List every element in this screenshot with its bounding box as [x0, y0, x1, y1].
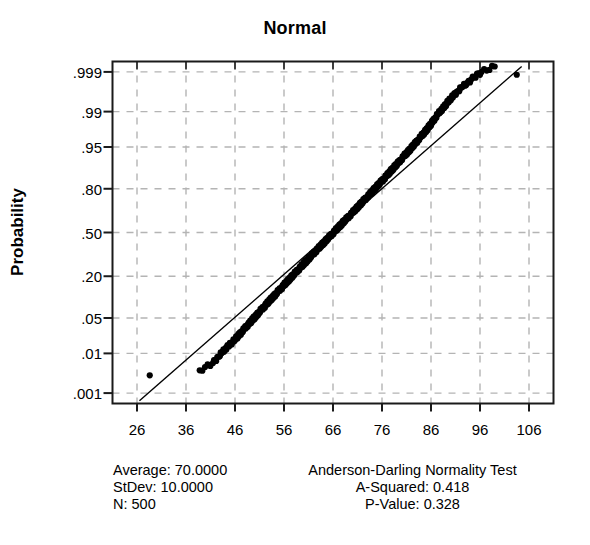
x-axis-tick-label: 26	[129, 421, 146, 438]
x-axis-tick-label: 36	[178, 421, 195, 438]
y-axis-tick-label: .99	[40, 103, 102, 120]
y-axis-tick-label: .95	[40, 139, 102, 156]
data-point	[147, 372, 153, 378]
y-axis-tick-label: .05	[40, 309, 102, 326]
plot-footer: Average: 70.0000 StDev: 10.0000 N: 500 A…	[0, 462, 590, 532]
y-axis-tick-label: .20	[40, 268, 102, 285]
x-axis-tick-label: 86	[423, 421, 440, 438]
x-axis-tick-label: 96	[472, 421, 489, 438]
p-value-stat: P-Value: 0.328	[290, 496, 535, 513]
x-axis-tick-label: 66	[325, 421, 342, 438]
average-stat: Average: 70.0000	[113, 462, 227, 479]
y-axis-tick-label: .80	[40, 180, 102, 197]
axis-ticks	[104, 62, 530, 412]
y-axis-tick-label: .50	[40, 224, 102, 241]
summary-statistics: Average: 70.0000 StDev: 10.0000 N: 500	[113, 462, 227, 513]
x-axis-tick-label: 56	[276, 421, 293, 438]
x-axis-tick-label: 76	[374, 421, 391, 438]
y-axis-tick-label: .999	[40, 63, 102, 80]
anderson-darling-test: Anderson-Darling Normality Test A-Square…	[290, 462, 535, 513]
y-axis-tick-label: .001	[40, 385, 102, 402]
data-point	[514, 72, 520, 78]
test-name: Anderson-Darling Normality Test	[290, 462, 535, 479]
stdev-stat: StDev: 10.0000	[113, 479, 227, 496]
y-axis-tick-label: .01	[40, 345, 102, 362]
a-squared-stat: A-Squared: 0.418	[290, 479, 535, 496]
x-axis-tick-label: 106	[516, 421, 541, 438]
n-stat: N: 500	[113, 496, 227, 513]
data-point	[492, 63, 498, 69]
normal-probability-plot: Normal Probability .001.01.05.20.50.80.9…	[0, 0, 590, 545]
x-axis-tick-label: 46	[227, 421, 244, 438]
